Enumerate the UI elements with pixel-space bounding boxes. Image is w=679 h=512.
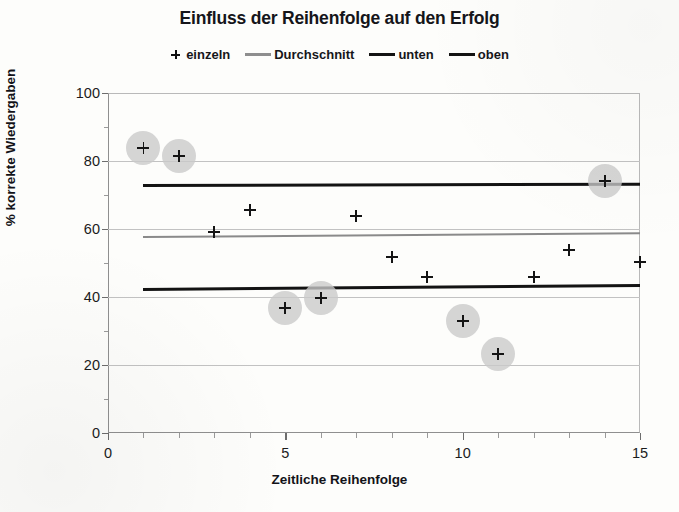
legend-item-oben: oben: [449, 47, 509, 62]
data-point-marker: [279, 301, 292, 314]
y-axis-minor-tick: [104, 263, 108, 264]
data-point-marker: [243, 203, 256, 216]
chart-title: Einfluss der Reihenfolge auf den Erfolg: [0, 8, 679, 29]
chart-legend: einzeln Durchschnitt unten oben: [0, 47, 679, 62]
plot-area: 020406080100051015: [108, 93, 640, 433]
x-axis-minor-tick: [498, 433, 499, 438]
legend-item-unten: unten: [369, 47, 433, 62]
data-point-marker: [137, 142, 150, 155]
gridline-horizontal: [108, 297, 640, 298]
data-point-marker: [350, 210, 363, 223]
x-axis-tick: [108, 433, 109, 440]
y-axis-minor-tick: [104, 331, 108, 332]
line-marker-icon-unten: [369, 53, 395, 57]
y-axis-minor-tick: [104, 195, 108, 196]
legend-label-durchschnitt: Durchschnitt: [274, 47, 354, 62]
x-axis-minor-tick: [569, 433, 570, 438]
x-axis-minor-tick: [534, 433, 535, 438]
data-point-marker: [634, 255, 647, 268]
x-axis-title: Zeitliche Reihenfolge: [0, 472, 679, 487]
y-axis-title: % korrekte Wiedergaben: [3, 0, 18, 358]
y-axis-tick-label: 100: [40, 85, 100, 101]
x-axis-minor-tick: [392, 433, 393, 438]
legend-item-einzeln: einzeln: [170, 47, 230, 62]
plus-marker-icon: [170, 49, 181, 60]
x-axis-tick-label: 10: [443, 445, 483, 461]
data-point-marker: [456, 314, 469, 327]
x-axis-minor-tick: [214, 433, 215, 438]
x-axis-minor-tick: [427, 433, 428, 438]
data-point-marker: [172, 149, 185, 162]
x-axis-tick: [640, 433, 641, 440]
legend-label-einzeln: einzeln: [186, 47, 230, 62]
legend-label-oben: oben: [478, 47, 509, 62]
x-axis-minor-tick: [143, 433, 144, 438]
gridline-horizontal: [108, 229, 640, 230]
legend-item-durchschnitt: Durchschnitt: [245, 47, 354, 62]
y-axis-tick-label: 80: [40, 153, 100, 169]
data-point-marker: [314, 292, 327, 305]
y-axis-minor-tick: [104, 127, 108, 128]
data-point-marker: [385, 251, 398, 264]
x-axis-tick: [285, 433, 286, 440]
y-axis-tick: [102, 365, 108, 366]
x-axis-minor-tick: [605, 433, 606, 438]
y-axis-tick-label: 0: [40, 425, 100, 441]
y-axis-tick: [102, 161, 108, 162]
legend-label-unten: unten: [398, 47, 433, 62]
data-point-marker: [563, 244, 576, 257]
y-axis-tick: [102, 93, 108, 94]
y-axis-tick: [102, 297, 108, 298]
data-point-marker: [598, 175, 611, 188]
line-marker-icon-durchschnitt: [245, 53, 271, 56]
data-point-marker: [527, 270, 540, 283]
data-point-marker: [492, 348, 505, 361]
x-axis-tick-label: 0: [88, 445, 128, 461]
x-axis-minor-tick: [250, 433, 251, 438]
chart-figure: Einfluss der Reihenfolge auf den Erfolg …: [0, 0, 679, 512]
line-marker-icon-oben: [449, 53, 475, 57]
x-axis-tick-label: 5: [265, 445, 305, 461]
y-axis-tick-label: 60: [40, 221, 100, 237]
x-axis-tick: [463, 433, 464, 440]
x-axis-minor-tick: [356, 433, 357, 438]
data-point-marker: [421, 271, 434, 284]
y-axis-tick-label: 20: [40, 357, 100, 373]
x-axis-minor-tick: [179, 433, 180, 438]
x-axis-tick-label: 15: [620, 445, 660, 461]
y-axis-minor-tick: [104, 399, 108, 400]
x-axis-minor-tick: [321, 433, 322, 438]
data-point-marker: [208, 225, 221, 238]
y-axis-tick: [102, 229, 108, 230]
gridline-horizontal: [108, 365, 640, 366]
y-axis-tick-label: 40: [40, 289, 100, 305]
